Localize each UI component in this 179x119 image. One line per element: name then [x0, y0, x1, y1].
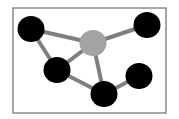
bottom-right-node [126, 63, 153, 89]
network-diagram [0, 0, 179, 119]
middle-left-node [44, 57, 71, 83]
hub-node [80, 30, 107, 56]
bottom-center-node [91, 81, 118, 107]
top-left-node [18, 16, 45, 42]
top-right-node [134, 12, 161, 38]
nodes-group [18, 12, 161, 107]
